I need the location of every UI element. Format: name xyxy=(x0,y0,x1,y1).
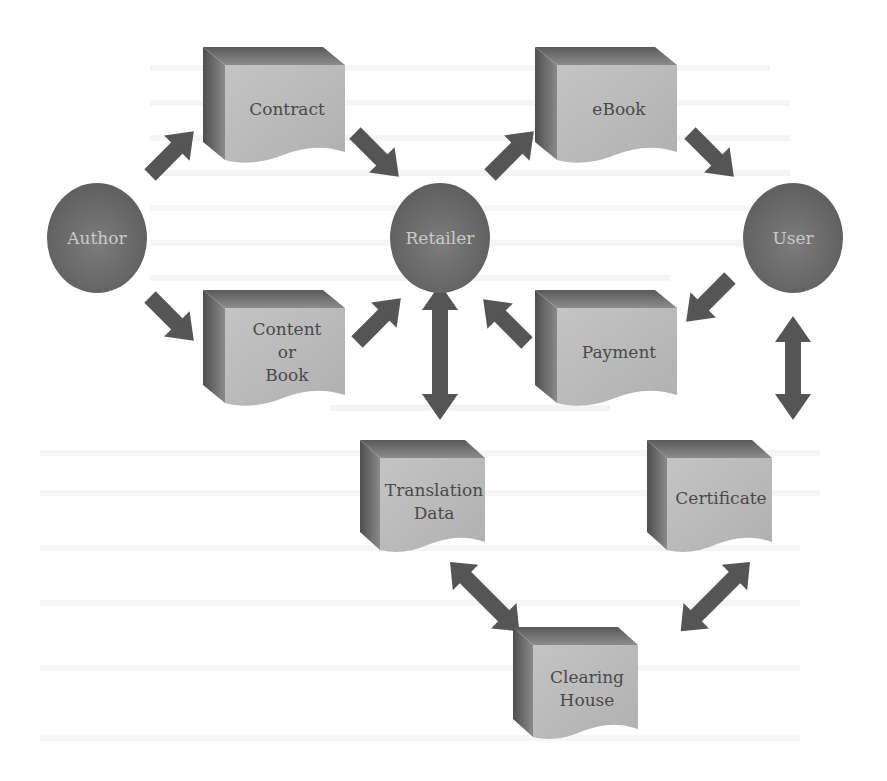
node-contract-label: Contract xyxy=(249,99,325,119)
arrow-content-to-retailer xyxy=(344,285,413,354)
node-content-label-line3: Book xyxy=(265,365,309,385)
node-payment: Payment xyxy=(535,290,677,406)
node-user-label: User xyxy=(772,228,814,248)
ebook-distribution-diagram: Author Retailer User Contract Content or… xyxy=(0,0,887,781)
node-certificate: Certificate xyxy=(647,440,772,552)
node-retailer-label: Retailer xyxy=(406,228,476,248)
node-author: Author xyxy=(47,183,147,293)
node-retailer: Retailer xyxy=(390,183,490,293)
arrow-ebook-to-user xyxy=(677,120,746,189)
node-content-or-book: Content or Book xyxy=(203,290,345,406)
arrow-author-to-content xyxy=(137,284,206,353)
arrow-certificate-clearing-bidirectional xyxy=(668,549,763,644)
node-clearing-label-line1: Clearing xyxy=(550,667,624,687)
node-translation-data: Translation Data xyxy=(360,440,485,552)
node-content-label-line1: Content xyxy=(253,319,322,339)
node-contract: Contract xyxy=(203,47,345,163)
node-content-label-line2: or xyxy=(278,342,297,362)
node-ebook: eBook xyxy=(535,47,677,163)
arrow-payment-to-retailer xyxy=(470,286,539,355)
node-author-label: Author xyxy=(66,228,127,248)
node-user: User xyxy=(743,183,843,293)
arrow-user-to-payment xyxy=(673,265,742,334)
arrow-contract-to-retailer xyxy=(342,120,411,189)
node-payment-label: Payment xyxy=(582,342,657,362)
node-clearing-label-line2: House xyxy=(560,690,615,710)
node-ebook-label: eBook xyxy=(592,99,646,119)
node-translation-label-line2: Data xyxy=(414,503,455,523)
node-translation-label-line1: Translation xyxy=(385,480,483,500)
arrow-retailer-translation-bidirectional xyxy=(422,284,458,420)
arrow-user-certificate-bidirectional xyxy=(775,316,811,420)
node-certificate-label: Certificate xyxy=(675,488,766,508)
node-clearing-house: Clearing House xyxy=(513,627,638,739)
arrow-author-to-contract xyxy=(137,118,206,187)
